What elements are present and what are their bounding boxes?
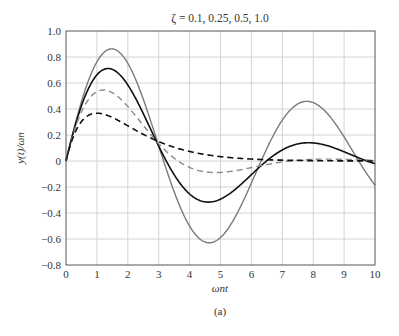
y-tick-label: −0.6	[41, 233, 61, 245]
x-tick-label: 10	[370, 268, 382, 280]
y-tick-label: 0.6	[47, 77, 61, 89]
x-tick-label: 1	[94, 268, 100, 280]
x-tick-label: 0	[63, 268, 69, 280]
y-tick-label: −0.2	[41, 181, 61, 193]
y-tick-label: 1.0	[47, 25, 61, 37]
y-axis-ticks: 1.00.80.60.40.20−0.2−0.4−0.6−0.8	[41, 25, 61, 271]
chart-title: ζ = 0.1, 0.25, 0.5, 1.0	[171, 12, 269, 25]
figure-caption: (a)	[214, 305, 227, 318]
y-tick-label: 0	[56, 155, 62, 167]
x-tick-label: 4	[187, 268, 193, 280]
x-tick-label: 9	[341, 268, 347, 280]
x-tick-label: 7	[280, 268, 286, 280]
grid-lines	[66, 31, 375, 265]
x-axis-label: ωnt	[212, 282, 229, 294]
x-tick-label: 3	[156, 268, 162, 280]
y-tick-label: 0.4	[47, 103, 61, 115]
x-axis-ticks: 012345678910	[63, 268, 381, 280]
y-tick-label: −0.4	[41, 207, 61, 219]
x-tick-label: 6	[249, 268, 255, 280]
y-tick-label: 0.8	[47, 51, 61, 63]
impulse-response-chart: 1.00.80.60.40.20−0.2−0.4−0.6−0.8 0123456…	[0, 0, 399, 336]
x-tick-label: 5	[218, 268, 224, 280]
y-tick-label: 0.2	[47, 129, 61, 141]
y-axis-label: y(t)/ωn	[14, 132, 27, 165]
x-tick-label: 2	[125, 268, 131, 280]
y-tick-label: −0.8	[41, 259, 61, 271]
x-tick-label: 8	[310, 268, 316, 280]
